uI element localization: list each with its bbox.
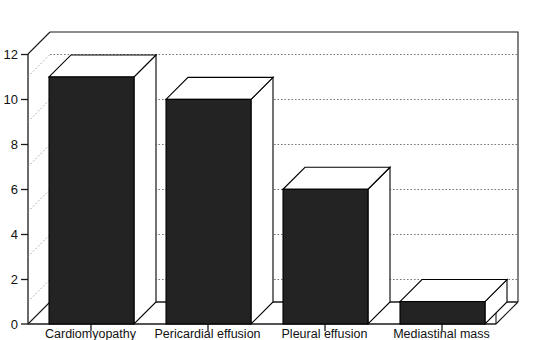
three-d-bar-chart: 12 10 8 6 4 2 0 CardiomyopathyPericardia… (0, 0, 534, 340)
y-tick-label-6: 6 (11, 182, 18, 197)
bar-side-face (251, 77, 273, 324)
bar-side-face (134, 55, 156, 324)
bar-front-face (283, 189, 368, 324)
y-tick-label-2: 2 (11, 272, 18, 287)
y-tick-label-0: 0 (11, 317, 18, 332)
gridlines-sidewall (28, 55, 50, 302)
y-axis-ticks (21, 55, 28, 325)
y-tick-label-10: 10 (4, 92, 18, 107)
figure-caption (0, 331, 534, 340)
y-tick-label-4: 4 (11, 227, 18, 242)
y-tick-label-12: 12 (4, 47, 18, 62)
bar-3 (283, 167, 390, 324)
bar-front-face (49, 77, 134, 324)
bar-front-face (400, 302, 485, 324)
x-axis-ticks (91, 324, 442, 331)
y-axis-labels: 12 10 8 6 4 2 0 (4, 47, 18, 332)
bar-side-face (368, 167, 390, 324)
y-tick-label-8: 8 (11, 137, 18, 152)
bar-front-face (166, 99, 251, 324)
chart-container: 12 10 8 6 4 2 0 CardiomyopathyPericardia… (0, 0, 534, 340)
bar-2 (166, 77, 273, 324)
bar-4 (400, 280, 507, 324)
bar-1 (49, 55, 156, 324)
